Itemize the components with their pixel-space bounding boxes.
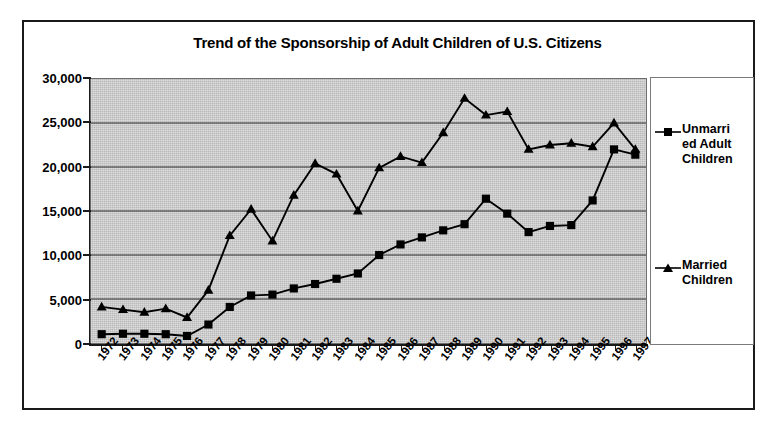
y-axis-tick-label: 5,000 (49, 292, 82, 307)
legend-label-line-2: ed Adult (682, 137, 753, 152)
y-axis-tick-label: 25,000 (42, 115, 82, 130)
x-axis-tick-mark (165, 344, 166, 351)
y-axis-tick-mark (83, 210, 91, 212)
chart-legend: Unmarri ed Adult Children Married Childr… (650, 77, 754, 345)
y-axis-tick-label: 10,000 (42, 248, 82, 263)
legend-label-line-3: Children (682, 152, 753, 167)
x-axis-tick-mark (593, 344, 594, 351)
data-point-marker (610, 145, 618, 153)
x-axis-tick-mark (529, 344, 530, 351)
data-point-marker (566, 138, 576, 147)
y-axis-labels: 05,00010,00015,00020,00025,00030,000 (24, 72, 86, 352)
plot-series-svg (91, 79, 646, 343)
legend-marker-square-icon (655, 126, 681, 138)
x-axis-tick-mark (144, 344, 145, 351)
data-point-marker (503, 210, 511, 218)
data-point-marker (97, 302, 107, 311)
data-point-marker (119, 330, 127, 338)
legend-label-unmarried: Unmarri ed Adult Children (682, 122, 753, 167)
x-axis-tick-mark (229, 344, 230, 351)
data-point-marker (246, 204, 256, 213)
data-point-marker (589, 196, 597, 204)
y-axis-tick-mark (83, 299, 91, 301)
series-unmarried-adult-children (98, 145, 640, 340)
series-line (102, 149, 636, 336)
y-axis-tick-label: 0 (75, 337, 82, 352)
data-point-marker (546, 222, 554, 230)
x-axis-tick-mark (208, 344, 209, 351)
y-axis-tick-mark (83, 254, 91, 256)
x-axis-tick-mark (615, 344, 616, 351)
data-point-marker (140, 330, 148, 338)
data-point-marker (290, 284, 298, 292)
x-axis-tick-mark (122, 344, 123, 351)
data-point-marker (183, 332, 191, 340)
x-axis-tick-mark (251, 344, 252, 351)
data-point-marker (354, 269, 362, 277)
y-axis-tick-mark (83, 166, 91, 168)
x-axis-tick-mark (486, 344, 487, 351)
data-point-marker (502, 106, 512, 115)
legend-label-line-2: Children (682, 273, 753, 288)
data-point-marker (482, 195, 490, 203)
legend-label-line-1: Unmarri (682, 122, 753, 137)
x-axis-tick-mark (422, 344, 423, 351)
x-axis-tick-mark (636, 344, 637, 351)
data-point-marker (567, 221, 575, 229)
legend-label-line-1: Married (682, 258, 753, 273)
x-axis-tick-mark (551, 344, 552, 351)
chart-figure: Trend of the Sponsorship of Adult Childr… (22, 20, 755, 410)
data-point-marker (439, 226, 447, 234)
data-point-marker (375, 251, 383, 259)
series-married-children (97, 93, 641, 321)
x-axis-tick-mark (336, 344, 337, 351)
x-axis-tick-mark (401, 344, 402, 351)
data-point-marker (98, 330, 106, 338)
x-axis-tick-mark (315, 344, 316, 351)
x-axis-tick-mark (379, 344, 380, 351)
legend-marker-triangle-icon (655, 262, 681, 274)
chart-title: Trend of the Sponsorship of Adult Childr… (24, 34, 753, 51)
data-point-marker (396, 151, 406, 160)
y-axis-tick-mark (83, 343, 91, 345)
data-point-marker (332, 275, 340, 283)
x-axis-tick-mark (294, 344, 295, 351)
x-axis-tick-mark (572, 344, 573, 351)
data-point-marker (460, 93, 470, 102)
data-point-marker (268, 291, 276, 299)
data-point-marker (162, 330, 170, 338)
data-point-marker (418, 233, 426, 241)
x-axis-tick-mark (444, 344, 445, 351)
series-line (102, 98, 636, 317)
data-point-marker (247, 291, 255, 299)
data-point-marker (204, 320, 212, 328)
y-axis-tick-mark (83, 121, 91, 123)
x-axis-tick-mark (101, 344, 102, 351)
x-axis-tick-mark (465, 344, 466, 351)
data-point-marker (353, 206, 363, 215)
data-point-marker (609, 118, 619, 127)
x-axis-tick-mark (272, 344, 273, 351)
legend-label-married: Married Children (682, 258, 753, 288)
data-point-marker (310, 158, 320, 167)
plot-area (90, 78, 647, 344)
data-point-marker (161, 304, 171, 313)
y-axis-tick-label: 20,000 (42, 159, 82, 174)
data-point-marker (396, 240, 404, 248)
x-axis-tick-mark (508, 344, 509, 351)
x-axis-tick-mark (186, 344, 187, 351)
data-point-marker (525, 228, 533, 236)
data-point-marker (311, 280, 319, 288)
y-axis-tick-label: 30,000 (42, 71, 82, 86)
y-axis-tick-label: 15,000 (42, 204, 82, 219)
x-axis-tick-mark (358, 344, 359, 351)
data-point-marker (226, 303, 234, 311)
y-axis-tick-mark (83, 77, 91, 79)
data-point-marker (460, 220, 468, 228)
data-point-marker (203, 285, 213, 294)
